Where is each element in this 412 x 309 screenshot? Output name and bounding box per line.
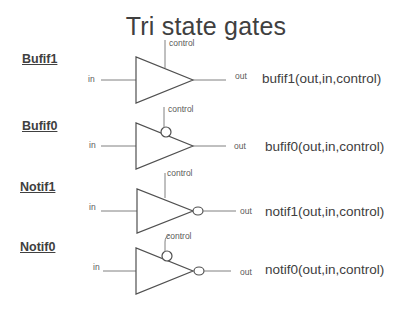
gate-name-bufif0: Bufif0 xyxy=(22,119,57,133)
bufif1-input-label: in xyxy=(88,74,95,84)
notif0-output-label: out xyxy=(240,267,252,277)
notif1-input-label: in xyxy=(89,202,96,212)
notif1-gate-symbol xyxy=(101,173,236,233)
bufif1-gate-symbol xyxy=(101,40,226,103)
notif1-output-label: out xyxy=(240,206,252,216)
notif0-control-label: control xyxy=(166,231,192,241)
notif1-output-inversion-bubble-icon xyxy=(193,207,203,215)
bufif1-syntax: bufif1(out,in,control) xyxy=(262,71,381,86)
bufif0-output-label: out xyxy=(234,141,246,151)
bufif0-input-label: in xyxy=(89,140,96,150)
bufif0-control-inversion-bubble-icon xyxy=(161,127,171,137)
gate-name-bufif1: Bufif1 xyxy=(22,52,57,66)
bufif1-output-label: out xyxy=(235,71,247,81)
gate-name-notif0: Notif0 xyxy=(20,240,55,254)
notif0-syntax: notif0(out,in,control) xyxy=(265,262,384,277)
bufif1-control-label: control xyxy=(169,38,195,48)
notif1-syntax: notif1(out,in,control) xyxy=(265,204,384,219)
bufif0-gate-symbol xyxy=(101,107,226,169)
gate-name-notif1: Notif1 xyxy=(20,180,55,194)
notif0-input-label: in xyxy=(93,262,100,272)
bufif0-control-label: control xyxy=(168,104,194,114)
notif0-control-inversion-bubble-icon xyxy=(162,251,172,261)
notif0-output-inversion-bubble-icon xyxy=(194,267,204,275)
notif0-gate-symbol xyxy=(103,235,231,294)
bufif0-syntax: bufif0(out,in,control) xyxy=(265,139,384,154)
notif1-control-label: control xyxy=(167,168,193,178)
